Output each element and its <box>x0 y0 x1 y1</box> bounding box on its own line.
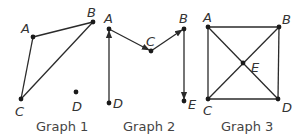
graph-2-caption: Graph 2 <box>123 119 175 134</box>
vertex-label-a: A <box>202 10 212 25</box>
vertex-label-a: A <box>20 21 30 36</box>
vertex-b <box>182 27 187 32</box>
vertex-label-d: D <box>72 99 82 114</box>
graph-1: A B C D Graph 1 <box>15 5 96 134</box>
vertex-label-a: A <box>103 11 113 26</box>
vertex-e <box>182 99 187 104</box>
vertex-b <box>91 20 96 25</box>
vertex-a <box>107 27 112 32</box>
vertex-label-c: C <box>203 103 213 118</box>
vertex-label-b: B <box>87 5 96 20</box>
graph-3-caption: Graph 3 <box>221 119 273 134</box>
vertex-a <box>31 35 36 40</box>
graph-3: A B C D E Graph 3 <box>202 10 292 134</box>
edge-b-c <box>21 22 93 99</box>
graph-1-caption: Graph 1 <box>36 119 88 134</box>
vertex-d <box>107 101 112 106</box>
vertex-d <box>74 90 79 95</box>
vertex-label-c: C <box>15 104 25 119</box>
vertex-c <box>149 49 154 54</box>
vertex-label-d: D <box>113 96 123 111</box>
edge-a-c <box>21 37 33 99</box>
vertex-label-d: D <box>282 100 292 115</box>
vertex-label-c: C <box>146 34 156 49</box>
edge-a-to-c <box>109 29 149 50</box>
edge-c-to-b <box>151 30 182 51</box>
vertex-d <box>276 97 281 102</box>
vertex-label-e: E <box>188 97 197 112</box>
vertex-label-b: B <box>179 11 188 26</box>
edge-b-d <box>278 27 279 99</box>
edge-a-b <box>33 22 93 37</box>
vertex-c <box>206 97 211 102</box>
vertex-e <box>241 61 246 66</box>
vertex-a <box>206 25 211 30</box>
vertex-label-e: E <box>251 60 260 75</box>
vertex-b <box>277 25 282 30</box>
vertex-c <box>19 97 24 102</box>
graphs-figure: A B C D Graph 1 A B C D E Graph 2 A <box>0 0 304 139</box>
graph-2: A B C D E Graph 2 <box>103 11 197 134</box>
vertex-label-b: B <box>282 12 291 27</box>
